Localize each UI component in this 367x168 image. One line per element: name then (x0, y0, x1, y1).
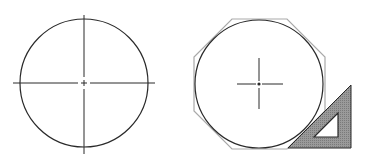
set-square-body (288, 85, 351, 148)
right-center-point (257, 82, 260, 85)
left-figure (13, 15, 155, 154)
right-figure (194, 19, 351, 149)
set-square-icon (288, 85, 351, 148)
drawing-canvas (0, 0, 367, 168)
